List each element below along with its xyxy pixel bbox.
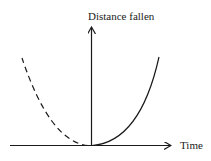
graph-canvas — [0, 0, 211, 161]
solid-curve — [92, 57, 159, 146]
y-axis-label: Distance fallen — [88, 10, 154, 22]
x-axis-label: Time — [180, 139, 203, 151]
dashed-curve — [22, 58, 88, 146]
